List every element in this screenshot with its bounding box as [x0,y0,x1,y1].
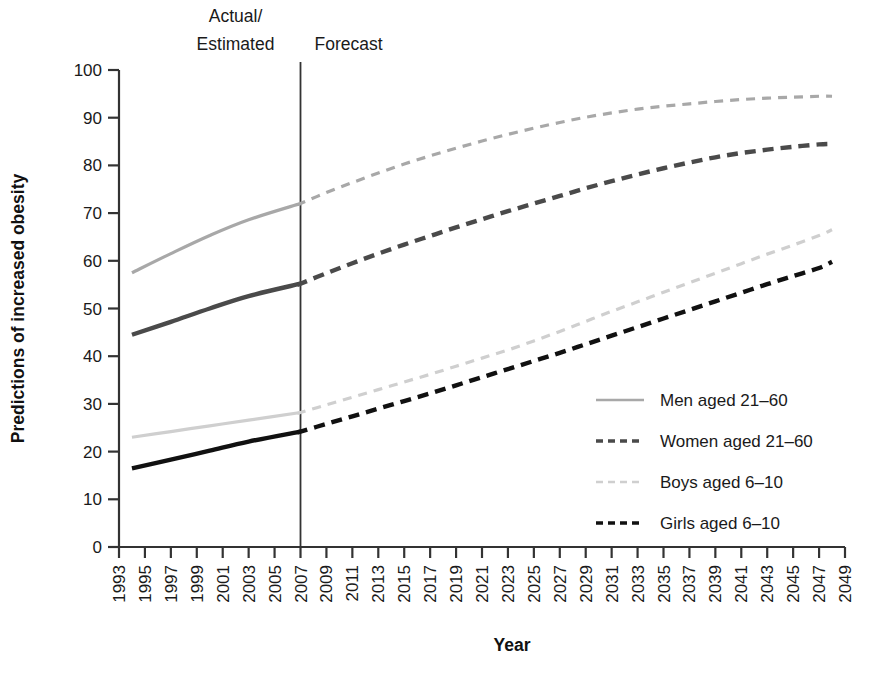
x-tick-label: 1997 [162,565,181,603]
x-tick-label: 2049 [836,565,855,603]
y-tick-label: 50 [83,300,102,319]
series-forecast-line [299,230,832,413]
x-tick-label: 2039 [706,565,725,603]
x-tick-label: 2019 [447,565,466,603]
y-tick-label: 90 [83,109,102,128]
y-tick-label: 40 [83,347,102,366]
legend-item-label: Girls aged 6–10 [660,514,780,533]
x-tick-label: 2037 [680,565,699,603]
y-tick-label: 80 [83,156,102,175]
x-tick-label: 1999 [188,565,207,603]
legend-item-label: Men aged 21–60 [660,391,788,410]
x-tick-label: 2031 [603,565,622,603]
actual-estimated-label-line1: Actual/ [209,6,263,26]
x-tick-label: 1993 [110,565,129,603]
y-tick-label: 0 [93,538,102,557]
x-tick-label: 2013 [369,565,388,603]
y-tick-label: 10 [83,490,102,509]
plot-area: 0102030405060708090100199319951997199920… [8,6,855,655]
legend-item-label: Boys aged 6–10 [660,473,783,492]
x-tick-label: 2015 [395,565,414,603]
y-tick-label: 100 [74,61,102,80]
x-axis-title: Year [494,635,531,655]
y-axis-title: Predictions of increased obesity [8,174,28,444]
x-tick-label: 2017 [421,565,440,603]
series-actual-line [132,412,301,437]
legend-item-label: Women aged 21–60 [660,432,813,451]
x-tick-label: 2007 [292,565,311,603]
y-tick-label: 30 [83,395,102,414]
y-tick-label: 70 [83,204,102,223]
x-tick-label: 2025 [525,565,544,603]
x-tick-label: 2041 [732,565,751,603]
x-tick-label: 2011 [343,565,362,602]
series-actual-line [132,432,301,469]
x-tick-label: 2047 [810,565,829,603]
y-tick-label: 60 [83,252,102,271]
actual-estimated-label-line2: Estimated [197,34,275,54]
x-tick-label: 2023 [499,565,518,603]
x-tick-label: 2005 [266,565,285,603]
x-tick-label: 2045 [784,565,803,603]
x-tick-label: 2043 [758,565,777,603]
series-actual-line [132,204,301,273]
x-tick-label: 2033 [629,565,648,603]
y-tick-label: 20 [83,443,102,462]
series-2 [132,144,832,335]
series-forecast-line [299,144,832,285]
legend: Men aged 21–60Women aged 21–60Boys aged … [596,391,813,533]
x-tick-label: 2003 [240,565,259,603]
x-tick-label: 2021 [473,565,492,603]
x-tick-label: 2029 [577,565,596,603]
obesity-predictions-chart: 0102030405060708090100199319951997199920… [0,0,875,678]
chart-canvas: 0102030405060708090100199319951997199920… [0,0,875,678]
forecast-label: Forecast [315,34,383,54]
series-1 [132,96,832,273]
x-tick-label: 1995 [136,565,155,603]
x-tick-label: 2009 [317,565,336,603]
series-actual-line [132,284,301,335]
x-tick-label: 2001 [214,565,233,603]
x-tick-label: 2027 [551,565,570,603]
x-tick-label: 2035 [655,565,674,603]
